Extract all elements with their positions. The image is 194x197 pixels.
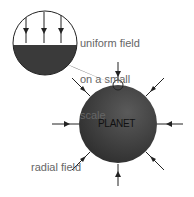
inset-magnifier <box>10 8 82 85</box>
uniform-label-line-2: on a small <box>80 73 140 85</box>
uniform-field-label: uniform field on a small scale <box>80 13 140 133</box>
uniform-label-line-1: uniform field <box>80 37 140 49</box>
radial-field-label: radial field on a large scale <box>31 137 81 197</box>
planet-label: PLANET <box>98 118 135 129</box>
radial-label-line-1: radial field <box>31 161 81 173</box>
